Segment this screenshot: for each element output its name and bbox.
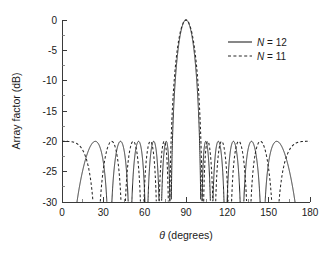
x-tick-label: 30 [98, 207, 110, 218]
y-tick-label: -5 [48, 45, 57, 56]
x-tick-label: 60 [139, 207, 151, 218]
array-factor-plot: 0 -5 -10 -15 -20 -25 -30 [0, 0, 335, 253]
legend-n11-eq: = [264, 51, 275, 62]
x-tick-label: 90 [180, 207, 192, 218]
x-tick-label: 150 [260, 207, 277, 218]
y-tick-label: -20 [43, 136, 58, 147]
legend-n11-value: 11 [276, 51, 287, 62]
y-tick-label: -10 [43, 75, 58, 86]
y-tick-label: -15 [43, 106, 58, 117]
x-tick-label: 120 [219, 207, 236, 218]
x-tick-label: 0 [59, 207, 65, 218]
legend-n12-value: 12 [276, 37, 288, 48]
legend-n12-eq: = [264, 37, 275, 48]
legend-label-n11: N = 11 [257, 51, 286, 62]
y-tick-label: -30 [43, 197, 58, 208]
array-factor-chart-figure: 0 -5 -10 -15 -20 -25 -30 [0, 0, 335, 253]
y-tick-label: -25 [43, 166, 58, 177]
y-tick-label: 0 [51, 15, 57, 26]
x-tick-label: 180 [302, 207, 319, 218]
x-axis-title-rest: (degrees) [165, 229, 213, 241]
legend-label-n12: N = 12 [257, 37, 287, 48]
y-axis-title: Array factor (dB) [10, 72, 22, 149]
x-axis-title: θ (degrees) [159, 229, 213, 241]
